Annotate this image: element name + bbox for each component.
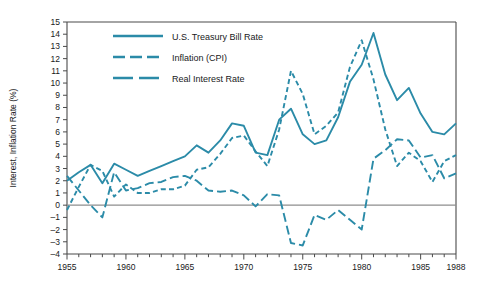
y-tick-label: 2 [55, 176, 60, 186]
y-tick-label: –4 [51, 249, 61, 259]
y-tick-label: 1 [55, 188, 60, 198]
y-tick-label: 11 [51, 66, 60, 76]
legend-label-1: U.S. Treasury Bill Rate [172, 32, 263, 42]
y-tick-label: 8 [55, 102, 60, 112]
y-tick-label: 7 [55, 115, 60, 125]
x-tick-label: 1955 [58, 262, 77, 272]
interest-inflation-line-chart: Interest, Inflation Rate (%) 15141312111… [0, 0, 485, 289]
y-tick-label: –1 [51, 212, 61, 222]
legend-label-3: Real Interest Rate [172, 74, 245, 84]
x-tick-label: 1965 [175, 262, 194, 272]
x-tick-label: 1975 [293, 262, 312, 272]
y-tick-label: 0 [55, 200, 60, 210]
y-tick-label: 15 [51, 17, 61, 27]
x-tick-label: 1988 [447, 262, 466, 272]
y-tick-label: –3 [51, 237, 61, 247]
x-tick-label: 1970 [234, 262, 253, 272]
y-tick-label: 10 [51, 78, 61, 88]
y-tick-label: 5 [55, 139, 60, 149]
chart-figure: Interest, Inflation Rate (%) 15141312111… [0, 0, 485, 289]
y-axis-title-text: Interest, Inflation Rate (%) [8, 88, 18, 187]
legend-label-2: Inflation (CPI) [172, 53, 227, 63]
y-tick-label: 3 [55, 164, 60, 174]
y-axis-title: Interest, Inflation Rate (%) [8, 88, 18, 187]
x-tick-label: 1985 [411, 262, 430, 272]
y-tick-label: 6 [55, 127, 60, 137]
y-tick-label: 4 [55, 151, 60, 161]
y-tick-label: 9 [55, 90, 60, 100]
y-tick-label: 13 [51, 41, 61, 51]
y-tick-label: 12 [51, 54, 61, 64]
y-tick-label: –2 [51, 225, 61, 235]
y-tick-label: 14 [51, 29, 61, 39]
x-tick-label: 1960 [116, 262, 135, 272]
x-tick-label: 1980 [352, 262, 371, 272]
